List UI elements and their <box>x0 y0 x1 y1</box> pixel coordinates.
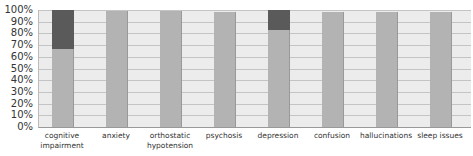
bar-segment-series-1 <box>268 30 290 127</box>
bar-segment-series-1 <box>430 12 452 127</box>
y-tick-label: 50% <box>0 64 33 74</box>
bar-segment-series-1 <box>322 12 344 127</box>
gridline <box>39 33 471 34</box>
y-tick-label: 40% <box>0 75 33 85</box>
bar-segment-series-2 <box>268 10 290 30</box>
bar-orthostatic-hypotension <box>160 10 182 127</box>
bar-sleep-issues <box>430 10 452 127</box>
bar-psychosis <box>214 10 236 127</box>
x-tick-label-line: impairment <box>27 141 97 151</box>
gridline <box>39 92 471 93</box>
y-tick-label: 90% <box>0 17 33 27</box>
gridline <box>39 80 471 81</box>
bar-segment-series-1 <box>214 12 236 127</box>
gridline <box>39 115 471 116</box>
gridline <box>39 45 471 46</box>
bar-segment-series-2 <box>52 10 74 49</box>
bar-anxiety <box>106 10 128 127</box>
x-tick-label-line: hypotension <box>135 141 205 151</box>
gridline <box>39 22 471 23</box>
gridline <box>39 57 471 58</box>
gridline <box>39 10 471 11</box>
y-tick-label: 10% <box>0 110 33 120</box>
x-tick-label-line: sleep issues <box>405 131 473 141</box>
bar-segment-series-1 <box>52 49 74 127</box>
bar-cognitive-impairment <box>52 10 74 127</box>
bar-confusion <box>322 10 344 127</box>
y-tick-label: 60% <box>0 52 33 62</box>
stacked-bar-chart: 0%10%20%30%40%50%60%70%80%90%100% cognit… <box>0 0 473 156</box>
y-tick-label: 80% <box>0 28 33 38</box>
y-tick-label: 20% <box>0 99 33 109</box>
y-tick-label: 70% <box>0 40 33 50</box>
gridline <box>39 104 471 105</box>
bar-segment-series-1 <box>376 12 398 127</box>
x-tick-label: sleep issues <box>405 131 473 141</box>
bar-segment-series-1 <box>106 11 128 127</box>
y-tick-label: 30% <box>0 87 33 97</box>
bar-segment-series-1 <box>160 11 182 127</box>
bar-depression <box>268 10 290 127</box>
plot-area <box>38 10 471 128</box>
gridline <box>39 69 471 70</box>
y-tick-label: 100% <box>0 5 33 15</box>
bar-hallucinations <box>376 10 398 127</box>
